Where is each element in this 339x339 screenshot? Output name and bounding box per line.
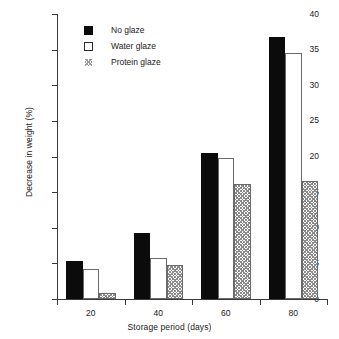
legend-label-water-glaze: Water glaze — [111, 41, 156, 51]
bar-protein-glaze-day-20 — [99, 293, 116, 299]
y-axis-label: Decrease in weight (%) — [24, 57, 34, 247]
chart-legend: No glaze Water glaze Protein glaze — [84, 22, 214, 70]
y-tick-20 — [52, 157, 57, 158]
legend-label-protein-glaze: Protein glaze — [111, 57, 161, 67]
x-tick-label-40: 40 — [138, 308, 178, 318]
legend-item-water-glaze: Water glaze — [84, 38, 214, 54]
y-tick-25 — [52, 121, 57, 122]
y-tick-35 — [52, 50, 57, 51]
y-tick-30 — [52, 85, 57, 86]
y-tick-15 — [52, 192, 57, 193]
y-tick-5 — [52, 263, 57, 264]
x-tick-label-80: 80 — [273, 308, 313, 318]
bar-no-glaze-day-80 — [269, 37, 286, 299]
bar-no-glaze-day-20 — [66, 261, 83, 299]
x-tick-boundary-3 — [260, 300, 261, 305]
bar-protein-glaze-day-80 — [302, 181, 319, 299]
x-tick-boundary-2 — [192, 300, 193, 305]
x-axis-label: Storage period (days) — [0, 322, 339, 332]
y-tick-10 — [52, 228, 57, 229]
bar-water-glaze-day-60 — [218, 158, 235, 299]
x-tick-boundary-4 — [327, 300, 328, 305]
legend-item-no-glaze: No glaze — [84, 22, 214, 38]
bar-water-glaze-day-20 — [83, 269, 100, 299]
x-tick-label-20: 20 — [71, 308, 111, 318]
bar-chart-figure: Decrease in weight (%) Storage period (d… — [0, 0, 339, 339]
bar-no-glaze-day-60 — [201, 153, 218, 299]
x-tick-boundary-1 — [125, 300, 126, 305]
legend-swatch-water-glaze-icon — [84, 42, 93, 51]
y-tick-40 — [52, 14, 57, 15]
bar-no-glaze-day-40 — [134, 233, 151, 299]
bar-protein-glaze-day-40 — [167, 265, 184, 299]
y-axis-line — [57, 14, 58, 300]
legend-swatch-no-glaze-icon — [84, 26, 93, 35]
y-tick-label-40: 40 — [297, 10, 319, 19]
legend-swatch-protein-glaze-icon — [84, 58, 93, 67]
x-tick-label-60: 60 — [206, 308, 246, 318]
bar-protein-glaze-day-60 — [234, 184, 251, 299]
x-tick-boundary-0 — [57, 300, 58, 305]
legend-item-protein-glaze: Protein glaze — [84, 54, 214, 70]
bar-water-glaze-day-80 — [285, 53, 302, 299]
legend-label-no-glaze: No glaze — [111, 25, 145, 35]
bar-water-glaze-day-40 — [150, 258, 167, 299]
